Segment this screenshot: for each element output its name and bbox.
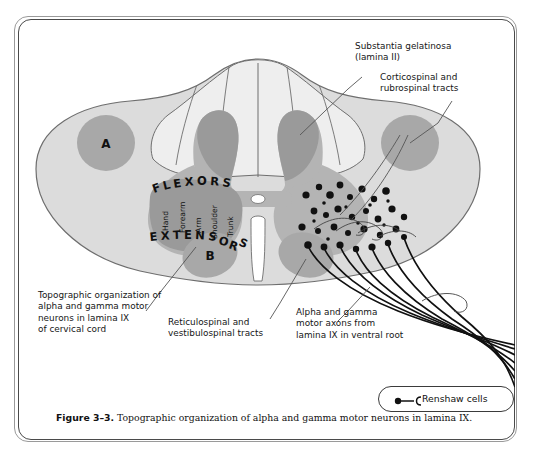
somatotopy-arm: Arm — [194, 217, 203, 233]
figure-page: F L E X O R S E X T E N S O R S — [0, 0, 533, 460]
somatotopy-forearm: Forearm — [178, 202, 187, 233]
region-mark-a: A — [101, 137, 111, 151]
annotation-alpha-gamma-axons: Alpha and gamma motor axons from lamina … — [296, 307, 446, 341]
figure-number: Figure 3–3. — [56, 412, 114, 423]
somatotopy-hand: Hand — [161, 211, 170, 231]
legend-label: Renshaw cells — [422, 393, 488, 404]
dorsal-columns — [151, 60, 365, 178]
figure-caption: Figure 3–3. Topographic organization of … — [56, 411, 476, 424]
somatotopy-trunk: Trunk — [226, 216, 235, 238]
annotation-substantia-gelatinosa: Substantia gelatinosa (lamina II) — [355, 41, 515, 64]
region-mark-b: B — [205, 249, 214, 263]
annotation-corticospinal-rubrospinal: Corticospinal and rubrospinal tracts — [380, 72, 515, 95]
diagram-stage: F L E X O R S E X T E N S O R S — [18, 19, 515, 440]
somatotopy-shoulder: Shoulder — [210, 204, 219, 239]
ventral-median-fissure — [251, 216, 265, 281]
central-canal — [251, 195, 265, 204]
figure-caption-text: Topographic organization of alpha and ga… — [117, 412, 472, 423]
annotation-reticulospinal-vestibulospinal: Reticulospinal and vestibulospinal tract… — [168, 317, 308, 340]
